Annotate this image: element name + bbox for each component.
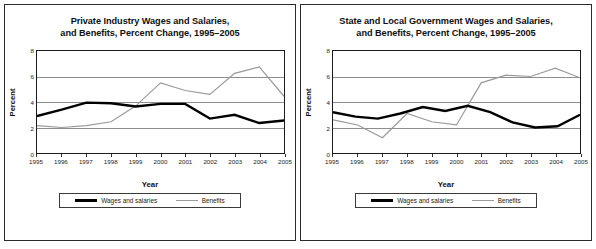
- x-tick-label: 1997: [375, 158, 389, 165]
- x-tick-label: 1998: [104, 158, 118, 165]
- x-tick-mark: [161, 154, 162, 157]
- x-tick-label: 2004: [549, 158, 563, 165]
- series-svg-private: [37, 51, 284, 153]
- chart-title-line1: Private Industry Wages and Salaries,: [71, 16, 230, 26]
- y-tick-label: 2: [314, 125, 330, 132]
- legend-swatch-benefits-icon: [176, 200, 198, 201]
- plot-area-state-local: [332, 50, 581, 154]
- series-svg-state-local: [333, 51, 580, 153]
- legend-label-benefits: Benefits: [498, 197, 521, 204]
- x-tick-label: 2000: [154, 158, 168, 165]
- legend-item-benefits-state-local: Benefits: [472, 197, 521, 204]
- x-tick-mark: [235, 154, 236, 157]
- x-tick-label: 1999: [425, 158, 439, 165]
- legend-item-wages-state-local: Wages and salaries: [371, 197, 453, 204]
- x-tick-mark: [260, 154, 261, 157]
- x-tick-mark: [111, 154, 112, 157]
- plot-wrapper-state-local: Percent 02468 19951996199719981999200020…: [301, 46, 591, 164]
- legend-item-wages-private: Wages and salaries: [75, 197, 157, 204]
- x-tick-mark: [407, 154, 408, 157]
- legend-swatch-wages-icon: [371, 199, 393, 202]
- x-tick-label: 1996: [54, 158, 68, 165]
- x-tick-label: 2000: [450, 158, 464, 165]
- line-wages-private: [37, 103, 284, 123]
- x-tick-mark: [556, 154, 557, 157]
- x-tick-mark: [357, 154, 358, 157]
- x-tick-label: 1995: [29, 158, 43, 165]
- x-tick-mark: [185, 154, 186, 157]
- x-tick-label: 1997: [79, 158, 93, 165]
- chart-title-line2: and Benefits, Percent Change, 1995–2005: [305, 28, 587, 40]
- y-tick-label: 0: [18, 151, 34, 158]
- plot-wrapper-private-industry: Percent 02468 19951996199719981999200020…: [5, 46, 295, 164]
- x-tick-label: 2002: [203, 158, 217, 165]
- x-tick-mark: [382, 154, 383, 157]
- x-tick-mark: [210, 154, 211, 157]
- legend-item-benefits-private: Benefits: [176, 197, 225, 204]
- chart-panel-private-industry: Private Industry Wages and Salaries, and…: [4, 4, 296, 241]
- y-tick-label: 6: [18, 73, 34, 80]
- x-tick-mark: [457, 154, 458, 157]
- chart-panel-state-local-government: State and Local Government Wages and Sal…: [300, 4, 592, 241]
- x-tick-label: 1998: [400, 158, 414, 165]
- x-tick-label: 2005: [574, 158, 588, 165]
- x-tick-label: 1999: [129, 158, 143, 165]
- y-tick-label: 2: [18, 125, 34, 132]
- legend-label-wages: Wages and salaries: [397, 197, 453, 204]
- x-tick-mark: [332, 154, 333, 157]
- chart-title-state-local: State and Local Government Wages and Sal…: [301, 16, 591, 39]
- y-tick-label: 4: [18, 99, 34, 106]
- x-tick-mark: [432, 154, 433, 157]
- legend-private: Wages and salaries Benefits: [59, 193, 241, 208]
- x-tick-mark: [285, 154, 286, 157]
- chart-title-line2: and Benefits, Percent Change, 1995–2005: [9, 28, 291, 40]
- x-axis-label-private: Year: [5, 180, 295, 189]
- x-tick-label: 2001: [179, 158, 193, 165]
- x-tick-label: 1996: [350, 158, 364, 165]
- x-tick-mark: [86, 154, 87, 157]
- x-axis-label-state-local: Year: [301, 180, 591, 189]
- x-tick-mark: [531, 154, 532, 157]
- x-tick-mark: [61, 154, 62, 157]
- x-tick-mark: [481, 154, 482, 157]
- x-tick-mark: [506, 154, 507, 157]
- chart-title-private-industry: Private Industry Wages and Salaries, and…: [5, 16, 295, 39]
- y-tick-label: 8: [314, 47, 330, 54]
- x-tick-label: 2005: [278, 158, 292, 165]
- x-axis-ticks-private: 1995199619971998199920002001200220032004…: [36, 154, 285, 166]
- legend-swatch-wages-icon: [75, 199, 97, 202]
- legend-label-wages: Wages and salaries: [101, 197, 157, 204]
- x-tick-mark: [136, 154, 137, 157]
- figure-container: Private Industry Wages and Salaries, and…: [0, 0, 596, 249]
- y-tick-label: 6: [314, 73, 330, 80]
- x-tick-mark: [36, 154, 37, 157]
- x-tick-mark: [581, 154, 582, 157]
- x-tick-label: 2004: [253, 158, 267, 165]
- x-tick-label: 2003: [228, 158, 242, 165]
- chart-title-line1: State and Local Government Wages and Sal…: [339, 16, 552, 26]
- x-tick-label: 2003: [524, 158, 538, 165]
- x-axis-ticks-state-local: 1995199619971998199920002001200220032004…: [332, 154, 581, 166]
- y-tick-label: 8: [18, 47, 34, 54]
- legend-swatch-benefits-icon: [472, 200, 494, 201]
- y-tick-label: 0: [314, 151, 330, 158]
- x-tick-label: 2002: [499, 158, 513, 165]
- legend-label-benefits: Benefits: [202, 197, 225, 204]
- y-tick-label: 4: [314, 99, 330, 106]
- legend-state-local: Wages and salaries Benefits: [355, 193, 537, 208]
- x-tick-label: 2001: [475, 158, 489, 165]
- x-tick-label: 1995: [325, 158, 339, 165]
- plot-area-private: [36, 50, 285, 154]
